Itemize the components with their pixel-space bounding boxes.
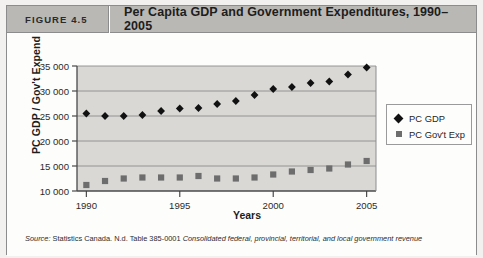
square-marker-icon: [394, 131, 403, 137]
legend-item-pc-gdp: PC GDP: [394, 110, 471, 126]
figure-root: FIGURE 4.5 Per Capita GDP and Government…: [0, 0, 483, 258]
data-point-square: [121, 175, 127, 181]
plot-background: [77, 66, 376, 191]
data-point-square: [345, 161, 351, 167]
legend-label-pc-gdp: PC GDP: [409, 113, 445, 124]
figure-header: FIGURE 4.5 Per Capita GDP and Government…: [7, 6, 476, 33]
y-axis-tick-label: 35 000: [40, 61, 69, 72]
source-plain-text: Statistics Canada. N.d. Table 385-0001: [50, 234, 182, 243]
data-point-square: [270, 171, 276, 177]
data-point-square: [364, 158, 370, 164]
data-point-square: [307, 167, 313, 173]
data-point-square: [195, 173, 201, 179]
data-point-square: [233, 175, 239, 181]
figure-number-label: FIGURE 4.5: [7, 14, 108, 25]
source-note: Source: Statistics Canada. N.d. Table 38…: [7, 229, 476, 256]
data-point-square: [214, 175, 220, 181]
figure-frame: FIGURE 4.5 Per Capita GDP and Government…: [6, 5, 477, 255]
data-point-square: [289, 168, 295, 174]
data-point-square: [83, 182, 89, 188]
source-lead: Source:: [25, 234, 50, 243]
legend-item-pc-govt-exp: PC Gov't Exp: [394, 126, 471, 142]
y-axis-tick-label: 15 000: [40, 161, 69, 172]
data-point-square: [177, 174, 183, 180]
data-point-square: [326, 165, 332, 171]
x-axis-tick-label: 1990: [76, 200, 97, 211]
data-point-square: [158, 174, 164, 180]
diamond-marker-icon: [394, 115, 403, 122]
source-italic-text: Consolidated federal, provincial, territ…: [183, 234, 423, 243]
figure-title: Per Capita GDP and Government Expenditur…: [110, 5, 476, 33]
x-axis-tick-label: 2005: [356, 200, 377, 211]
source-line-1: Source: Statistics Canada. N.d. Table 38…: [25, 234, 462, 244]
legend-label-pc-govt-exp: PC Gov't Exp: [409, 129, 465, 140]
data-point-square: [102, 178, 108, 184]
data-point-square: [251, 174, 257, 180]
y-axis-tick-label: 20 000: [40, 136, 69, 147]
y-axis-title: PC GDP / Gov't Expend: [30, 20, 42, 170]
data-point-square: [139, 174, 145, 180]
y-axis-tick-label: 25 000: [40, 111, 69, 122]
y-axis-tick-label: 10 000: [40, 186, 69, 197]
chart-legend: PC GDP PC Gov't Exp: [386, 104, 472, 145]
chart-area: 10 00015 00020 00025 00030 00035 0001990…: [7, 33, 476, 229]
y-axis-tick-label: 30 000: [40, 86, 69, 97]
x-axis-title: Years: [147, 209, 347, 221]
